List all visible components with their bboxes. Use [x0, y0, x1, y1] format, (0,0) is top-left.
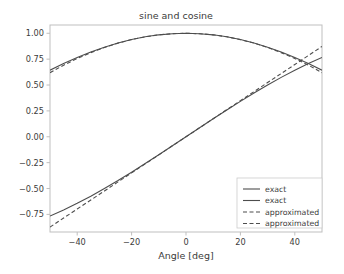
- legend-label-1: exact: [265, 196, 286, 205]
- legend-label-3: approximated: [265, 219, 319, 228]
- y-tick-label: 0.50: [26, 80, 44, 90]
- y-tick-label: 1.00: [26, 28, 44, 38]
- y-tick-label: 0.00: [26, 132, 44, 142]
- y-tick-label: −0.50: [19, 184, 44, 194]
- legend-label-0: exact: [265, 185, 286, 194]
- chart-legend: exactexactapproximatedapproximated: [237, 178, 322, 228]
- x-tick-label: 20: [235, 237, 245, 247]
- figure-canvas: sine and cosine 1.000.750.500.250.00−0.2…: [0, 0, 344, 274]
- y-tick-label: 0.75: [26, 54, 44, 64]
- y-tick-label: −0.25: [19, 158, 44, 168]
- y-tick-label: −0.75: [19, 209, 44, 219]
- chart-title: sine and cosine: [139, 10, 213, 21]
- x-tick-label: −40: [69, 237, 86, 247]
- x-tick-label: 40: [290, 237, 300, 247]
- x-axis-label: Angle [deg]: [158, 250, 213, 261]
- legend-label-2: approximated: [265, 208, 319, 217]
- x-tick-label: 0: [183, 237, 188, 247]
- x-tick-label: −20: [123, 237, 140, 247]
- sine-and-cosine-chart: sine and cosine 1.000.750.500.250.00−0.2…: [0, 0, 344, 274]
- y-tick-label: 0.25: [26, 106, 44, 116]
